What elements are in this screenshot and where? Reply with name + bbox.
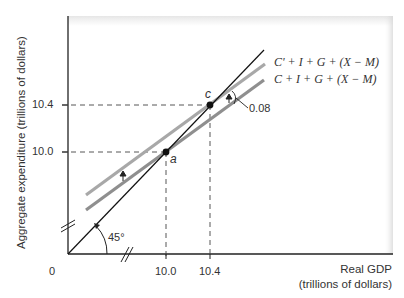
chart-canvas (0, 0, 404, 298)
x-axis-label-line1: Real GDP (299, 262, 392, 277)
ae-curve-upper (86, 64, 265, 195)
point-c (207, 102, 214, 109)
angle-arc-icon (96, 226, 107, 254)
shift-value-label: 0.08 (249, 102, 270, 114)
shift-arrow-icon (120, 94, 232, 181)
y-tick-10-0: 10.0 (32, 145, 53, 157)
x-tick-10-4: 10.4 (199, 265, 220, 277)
y-axis-label: Aggregate expenditure (trillions of doll… (15, 39, 27, 249)
y-tick-10-4: 10.4 (32, 98, 53, 110)
curve-label-lower: C + I + G + (X − M) (274, 72, 376, 87)
angle-label: 45° (108, 231, 125, 243)
point-a-label: a (170, 152, 177, 166)
x-axis-label-line2: (trillions of dollars) (299, 277, 392, 292)
guide-lines (62, 105, 210, 258)
origin-label: 0 (49, 265, 55, 277)
x-tick-10-0: 10.0 (155, 265, 176, 277)
ticks (62, 105, 210, 259)
x-axis-label: Real GDP (trillions of dollars) (299, 262, 392, 292)
point-c-label: c (205, 87, 211, 101)
curve-label-upper: C' + I + G + (X − M) (274, 55, 379, 70)
point-a (163, 149, 170, 156)
